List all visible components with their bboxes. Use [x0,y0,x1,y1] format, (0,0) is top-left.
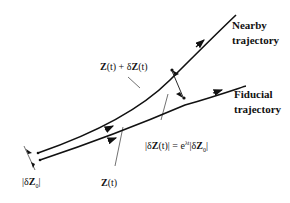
fiducial-trajectory-label: trajectory [234,104,281,115]
initial-separation-label: |δZ0| [22,177,40,189]
nearby-label: Nearby [232,20,267,31]
fiducial-label: Fiducial [234,89,273,100]
lyapunov-diagram: Nearby trajectory Fiducial trajectory Z(… [0,0,290,203]
growth-law-label: |δZ(t)| = eλt|δZ0| [145,140,208,153]
nearby-trajectory-curve [38,15,236,153]
fiducial-trajectory-curve [40,86,246,160]
nearby-trajectory-label: trajectory [232,35,279,46]
perturbed-trajectory-label: Z(t) + δZ(t) [100,62,148,72]
fiducial-state-label: Z(t) [101,178,117,188]
